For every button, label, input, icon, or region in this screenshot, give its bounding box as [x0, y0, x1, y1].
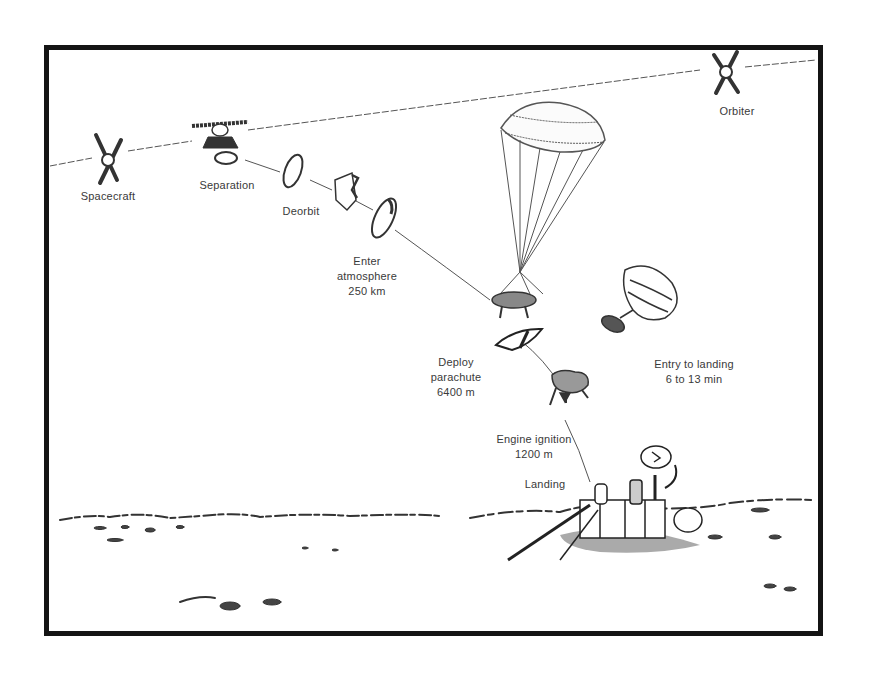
orbiter-icon — [714, 52, 738, 93]
orbiter-layer — [0, 0, 869, 675]
